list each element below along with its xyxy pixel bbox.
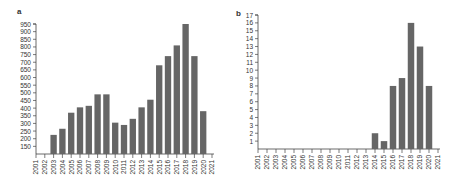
- x-tick-label: 2016: [389, 155, 396, 170]
- x-tick-label: 2020: [200, 160, 207, 175]
- y-tick-label: 1: [249, 138, 253, 145]
- chart-panel-b: 1234567891011121314151617200120022003200…: [246, 12, 442, 170]
- y-tick-label: 200: [20, 135, 31, 142]
- y-tick-label: 150: [20, 143, 31, 150]
- y-tick-label: 600: [20, 74, 31, 81]
- y-tick-label: 7: [249, 90, 253, 97]
- x-tick-label: 2011: [344, 155, 351, 169]
- y-tick-label: 950: [20, 21, 31, 28]
- x-tick-label: 2019: [416, 155, 423, 170]
- y-tick-label: 450: [20, 97, 31, 104]
- x-tick-label: 2021: [434, 155, 441, 170]
- y-tick-label: 14: [246, 35, 254, 42]
- y-tick-label: 15: [246, 27, 254, 34]
- bar: [50, 135, 56, 154]
- y-tick-label: 8: [249, 82, 253, 89]
- y-tick-label: 17: [246, 12, 254, 19]
- y-tick-label: 13: [246, 43, 254, 50]
- x-tick-label: 2014: [371, 155, 378, 170]
- y-tick-label: 650: [20, 66, 31, 73]
- bar: [94, 94, 100, 154]
- bar: [68, 113, 74, 154]
- bar: [86, 106, 92, 154]
- y-tick-label: 2: [249, 130, 253, 137]
- x-tick-label: 2009: [103, 160, 110, 175]
- bar: [399, 78, 405, 149]
- x-tick-label: 2014: [147, 160, 154, 175]
- x-tick-label: 2009: [326, 155, 333, 170]
- bar: [408, 23, 414, 149]
- bar: [182, 24, 188, 154]
- y-tick-label: 700: [20, 59, 31, 66]
- bar: [165, 56, 171, 154]
- x-tick-label: 2001: [254, 155, 261, 170]
- x-tick-label: 2011: [120, 160, 127, 174]
- y-tick-label: 800: [20, 43, 31, 50]
- bar: [191, 56, 197, 154]
- bar: [174, 45, 180, 154]
- x-tick-label: 2010: [112, 160, 119, 175]
- x-tick-label: 2019: [191, 160, 198, 175]
- x-tick-label: 2002: [41, 160, 48, 175]
- x-tick-label: 2013: [362, 155, 369, 170]
- x-tick-label: 2018: [182, 160, 189, 175]
- y-tick-label: 11: [246, 59, 253, 66]
- bar: [426, 86, 432, 149]
- bar: [156, 65, 162, 154]
- bar: [77, 107, 83, 154]
- y-tick-label: 12: [246, 51, 254, 58]
- y-tick-label: 350: [20, 112, 31, 119]
- y-tick-label: 9: [249, 75, 253, 82]
- y-tick-label: 550: [20, 82, 31, 89]
- x-tick-label: 2015: [156, 160, 163, 175]
- y-tick-label: 10: [246, 67, 254, 74]
- x-tick-label: 2005: [290, 155, 297, 170]
- panel-label-a: a: [17, 7, 22, 16]
- x-tick-label: 2004: [59, 160, 66, 175]
- bar: [138, 107, 144, 154]
- y-tick-label: 850: [20, 36, 31, 43]
- bar: [372, 133, 378, 149]
- x-tick-label: 2003: [50, 160, 57, 175]
- x-tick-label: 2020: [425, 155, 432, 170]
- x-tick-label: 2008: [94, 160, 101, 175]
- x-tick-label: 2006: [76, 160, 83, 175]
- bar: [417, 47, 423, 149]
- y-tick-label: 6: [249, 98, 253, 105]
- y-tick-label: 3: [249, 122, 253, 129]
- figure: a b 150200250300350400450500550600650700…: [0, 0, 455, 187]
- x-tick-label: 2007: [308, 155, 315, 170]
- y-tick-label: 300: [20, 120, 31, 127]
- x-tick-label: 2016: [164, 160, 171, 175]
- x-tick-label: 2006: [299, 155, 306, 170]
- x-tick-label: 2008: [317, 155, 324, 170]
- bar: [103, 94, 109, 154]
- x-tick-label: 2021: [208, 160, 215, 175]
- y-tick-label: 16: [246, 19, 254, 26]
- x-tick-label: 2002: [263, 155, 270, 170]
- chart-panel-a: 1502002503003504004505005506006507007508…: [20, 21, 215, 175]
- x-tick-label: 2005: [68, 160, 75, 175]
- y-tick-label: 400: [20, 105, 31, 112]
- x-tick-label: 2015: [380, 155, 387, 170]
- panel-label-b: b: [236, 9, 241, 18]
- x-tick-label: 2003: [272, 155, 279, 170]
- x-tick-label: 2017: [173, 160, 180, 175]
- x-tick-label: 2012: [353, 155, 360, 170]
- x-tick-label: 2018: [407, 155, 414, 170]
- x-tick-label: 2007: [85, 160, 92, 175]
- y-tick-label: 250: [20, 128, 31, 135]
- x-tick-label: 2012: [129, 160, 136, 175]
- bar: [59, 129, 65, 154]
- bar: [381, 141, 387, 149]
- y-tick-label: 900: [20, 28, 31, 35]
- bar: [200, 111, 206, 154]
- x-tick-label: 2010: [335, 155, 342, 170]
- y-tick-label: 500: [20, 89, 31, 96]
- x-tick-label: 2001: [32, 160, 39, 175]
- bar: [130, 119, 136, 154]
- y-tick-label: 5: [249, 106, 253, 113]
- y-tick-label: 750: [20, 51, 31, 58]
- bar: [112, 123, 118, 154]
- bar: [147, 100, 153, 154]
